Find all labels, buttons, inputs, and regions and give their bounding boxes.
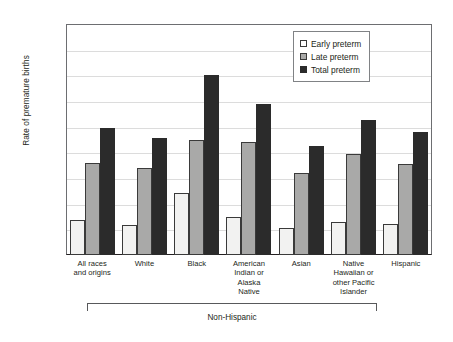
x-axis-category-label: All racesand origins [66, 259, 118, 297]
x-axis-category-labels: All racesand originsWhiteBlackAmericanIn… [66, 259, 432, 297]
legend-label: Late preterm [311, 52, 358, 62]
bar-group [380, 24, 432, 255]
square-black-icon [300, 66, 307, 73]
bar-group [171, 24, 223, 255]
bar-late-preterm [241, 142, 256, 255]
bar-group [66, 24, 118, 255]
bar-total-preterm [152, 138, 167, 255]
bar-late-preterm [346, 154, 361, 255]
bar-early-preterm [279, 228, 294, 255]
bar-late-preterm [189, 140, 204, 256]
legend-item-late-preterm: Late preterm [300, 50, 361, 63]
bar-total-preterm [309, 146, 324, 255]
bar-early-preterm [122, 225, 137, 255]
square-outline-icon [300, 40, 307, 47]
non-hispanic-bracket [87, 303, 377, 311]
chart-legend: Early preterm Late preterm Total preterm [293, 31, 370, 82]
premature-births-bar-chart: Rate of premature births 18%16%14%12%10%… [0, 0, 453, 342]
legend-label: Total preterm [311, 65, 360, 75]
square-gray-icon [300, 53, 307, 60]
non-hispanic-bracket-label: Non-Hispanic [87, 313, 377, 322]
bar-total-preterm [256, 104, 271, 255]
bar-late-preterm [85, 163, 100, 255]
bar-late-preterm [398, 164, 413, 255]
bar-early-preterm [70, 220, 85, 255]
x-axis-category-label: Black [171, 259, 223, 297]
bar-group [223, 24, 275, 255]
x-axis-category-label: Asian [275, 259, 327, 297]
bar-group [118, 24, 170, 255]
legend-label: Early preterm [311, 39, 361, 49]
bar-total-preterm [204, 75, 219, 255]
bar-total-preterm [413, 132, 428, 255]
legend-item-total-preterm: Total preterm [300, 63, 361, 76]
x-axis-category-label: Hispanic [380, 259, 432, 297]
bar-early-preterm [383, 224, 398, 255]
bar-late-preterm [294, 173, 309, 255]
x-axis-category-label: AmericanIndian orAlaskaNative [223, 259, 275, 297]
bar-early-preterm [174, 193, 189, 255]
bar-total-preterm [361, 120, 376, 255]
bar-late-preterm [137, 168, 152, 255]
bar-early-preterm [226, 217, 241, 256]
bar-total-preterm [100, 128, 115, 255]
x-axis-category-label: NativeHawaiian orother PacificIslander [327, 259, 379, 297]
x-axis-category-label: White [118, 259, 170, 297]
legend-item-early-preterm: Early preterm [300, 37, 361, 50]
bar-early-preterm [331, 222, 346, 255]
bar-groups [66, 24, 432, 255]
